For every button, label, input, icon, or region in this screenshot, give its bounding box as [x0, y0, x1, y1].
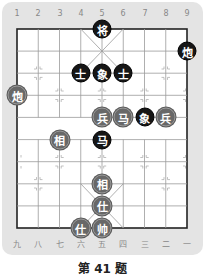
piece-red-elephant[interactable]: 相 — [50, 130, 69, 149]
puzzle-title: 第 41 题 — [0, 259, 205, 276]
piece-red-general[interactable]: 帅 — [93, 219, 112, 238]
piece-red-horse[interactable]: 马 — [114, 108, 133, 127]
piece-label: 仕 — [97, 198, 108, 214]
piece-black-general[interactable]: 将 — [93, 20, 112, 39]
piece-red-soldier[interactable]: 兵 — [156, 108, 175, 127]
piece-label: 相 — [54, 132, 65, 148]
piece-label: 兵 — [160, 109, 171, 125]
piece-label: 仕 — [75, 220, 86, 236]
piece-black-advisor[interactable]: 士 — [71, 64, 90, 83]
piece-red-advisor[interactable]: 仕 — [93, 196, 112, 215]
piece-label: 兵 — [97, 109, 108, 125]
piece-label: 将 — [97, 21, 108, 37]
piece-red-elephant[interactable]: 相 — [93, 174, 112, 193]
piece-red-soldier[interactable]: 兵 — [93, 108, 112, 127]
piece-label: 炮 — [182, 43, 193, 59]
piece-label: 士 — [118, 65, 129, 81]
piece-label: 帅 — [97, 220, 108, 236]
piece-red-cannon[interactable]: 炮 — [8, 86, 27, 105]
piece-label: 相 — [97, 176, 108, 192]
piece-black-elephant[interactable]: 象 — [135, 108, 154, 127]
piece-black-horse[interactable]: 马 — [93, 130, 112, 149]
piece-label: 炮 — [12, 87, 23, 103]
piece-label: 马 — [97, 132, 108, 148]
piece-black-cannon[interactable]: 炮 — [178, 42, 197, 61]
piece-label: 士 — [75, 65, 86, 81]
piece-black-advisor[interactable]: 士 — [114, 64, 133, 83]
piece-label: 马 — [118, 109, 129, 125]
piece-red-advisor[interactable]: 仕 — [71, 219, 90, 238]
piece-label: 象 — [97, 65, 108, 81]
piece-label: 象 — [139, 109, 150, 125]
piece-black-elephant[interactable]: 象 — [93, 64, 112, 83]
